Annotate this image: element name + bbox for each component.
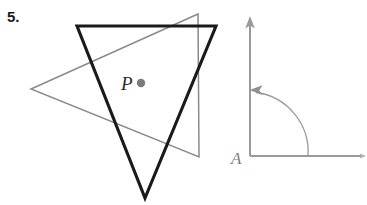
black-triangle: [77, 26, 216, 198]
rotation-figure-group: P: [31, 14, 216, 198]
rotation-angle-group: A: [230, 16, 366, 168]
gray-triangle: [31, 14, 199, 157]
point-p-label: P: [120, 73, 133, 94]
worksheet-page: 5. P A: [0, 0, 367, 205]
center-of-rotation-dot: [137, 79, 145, 87]
arc-arrow-icon: [250, 85, 264, 95]
geometry-figure-canvas: P A: [0, 0, 367, 205]
vertex-a-label: A: [230, 149, 242, 168]
rotation-arc: [257, 93, 309, 157]
